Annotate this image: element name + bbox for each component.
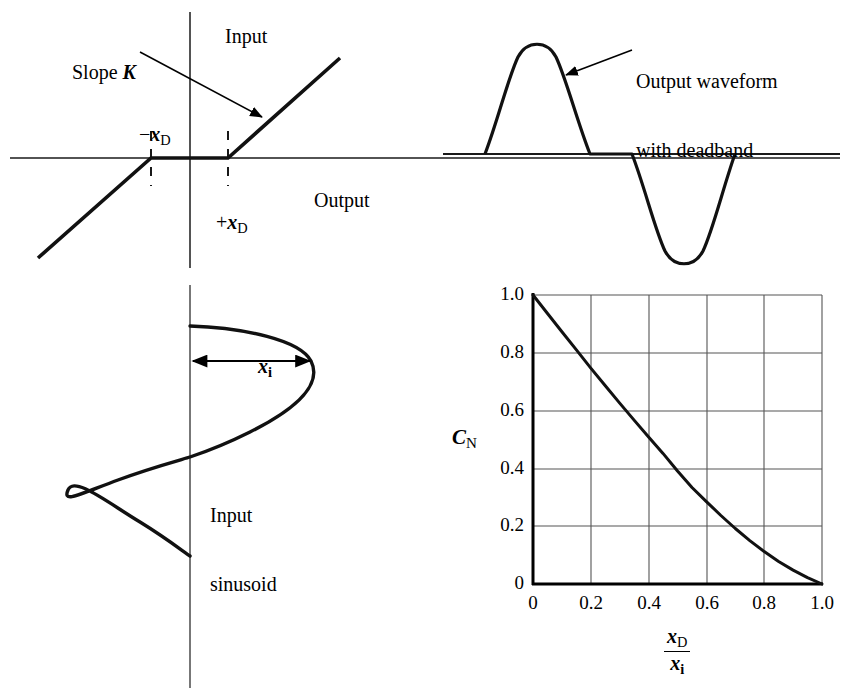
slope-label-text: Slope bbox=[72, 61, 123, 83]
chart-xtick-1: 1.0 bbox=[802, 592, 842, 614]
output-waveform-annotation: Output waveform with deadband bbox=[636, 24, 778, 208]
chart-xtick-0-text: 0 bbox=[528, 592, 538, 613]
deadband-neg-label: −xD bbox=[119, 100, 171, 172]
output-waveform-annotation-line1: Output waveform bbox=[636, 70, 778, 93]
deadband-pos-sign: + bbox=[216, 211, 227, 233]
chart-ytick-06: 0.6 bbox=[474, 399, 524, 421]
chart-ytick-0-text: 0 bbox=[515, 572, 525, 593]
chart-x-axis-label-denominator: xi bbox=[664, 653, 690, 677]
chart-xtick-02: 0.2 bbox=[571, 592, 611, 614]
deadband-pos-subscript: D bbox=[237, 220, 247, 236]
chart-x-axis-denominator-subscript: i bbox=[680, 661, 684, 677]
describing-function-curve bbox=[533, 295, 822, 584]
chart-ytick-1: 1.0 bbox=[474, 283, 524, 305]
chart-ytick-02-text: 0.2 bbox=[500, 514, 524, 535]
chart-vertical-gridlines bbox=[591, 295, 764, 584]
chart-horizontal-gridlines bbox=[533, 353, 822, 526]
output-axis-label: Output bbox=[294, 166, 370, 235]
input-amplitude-symbol: x bbox=[258, 355, 268, 377]
slope-symbol: K bbox=[123, 61, 136, 83]
chart-x-axis-numerator-subscript: D bbox=[677, 634, 687, 650]
chart-y-axis-label: CN bbox=[452, 425, 477, 452]
chart-ytick-0: 0 bbox=[474, 572, 524, 594]
deadband-pos-symbol: x bbox=[227, 211, 237, 233]
slope-label: Slope K bbox=[52, 38, 136, 107]
output-waveform-annotation-line2: with deadband bbox=[636, 139, 778, 162]
input-axis-label-text: Input bbox=[225, 25, 267, 47]
output-axis-label-text: Output bbox=[314, 189, 370, 211]
chart-xtick-08: 0.8 bbox=[744, 592, 784, 614]
describing-function-chart bbox=[532, 293, 823, 585]
chart-ytick-1-text: 1.0 bbox=[500, 283, 524, 304]
deadband-neg-symbol: x bbox=[150, 123, 160, 145]
chart-ytick-04-text: 0.4 bbox=[500, 457, 524, 478]
input-axis-label: Input bbox=[205, 2, 267, 71]
deadband-pos-label: +xD bbox=[196, 188, 248, 260]
input-sinusoid-plot bbox=[67, 285, 314, 688]
chart-xtick-04-text: 0.4 bbox=[637, 592, 661, 613]
input-sinusoid-label: Input sinusoid bbox=[210, 458, 277, 642]
chart-x-axis-denominator-symbol: x bbox=[670, 652, 680, 674]
input-amplitude-label: xi bbox=[238, 332, 272, 404]
chart-ytick-04: 0.4 bbox=[474, 457, 524, 479]
chart-ytick-02: 0.2 bbox=[474, 514, 524, 536]
deadband-neg-subscript: D bbox=[160, 132, 170, 148]
waveform-annotation-arrow bbox=[566, 50, 632, 75]
chart-x-axis-numerator-symbol: x bbox=[667, 625, 677, 647]
chart-xtick-04: 0.4 bbox=[629, 592, 669, 614]
chart-xtick-08-text: 0.8 bbox=[752, 592, 776, 613]
chart-ytick-06-text: 0.6 bbox=[500, 399, 524, 420]
chart-ytick-08-text: 0.8 bbox=[500, 341, 524, 362]
figure-root: Slope K Input Output −xD +xD Output wave… bbox=[0, 0, 849, 699]
chart-xtick-06: 0.6 bbox=[687, 592, 727, 614]
input-sinusoid-label-line1: Input bbox=[210, 504, 277, 527]
chart-y-axis-symbol: C bbox=[452, 425, 466, 449]
chart-xtick-1-text: 1.0 bbox=[810, 592, 834, 613]
chart-y-axis-subscript: N bbox=[466, 435, 477, 451]
chart-x-axis-label-numerator: xD bbox=[664, 626, 690, 650]
input-amplitude-subscript: i bbox=[268, 364, 272, 380]
input-sinusoid-label-line2: sinusoid bbox=[210, 573, 277, 596]
deadband-neg-sign: − bbox=[139, 123, 150, 145]
chart-xtick-0: 0 bbox=[513, 592, 553, 614]
chart-x-axis-label: xD xi bbox=[664, 626, 690, 677]
chart-xtick-02-text: 0.2 bbox=[579, 592, 603, 613]
chart-xtick-06-text: 0.6 bbox=[695, 592, 719, 613]
chart-ytick-08: 0.8 bbox=[474, 341, 524, 363]
